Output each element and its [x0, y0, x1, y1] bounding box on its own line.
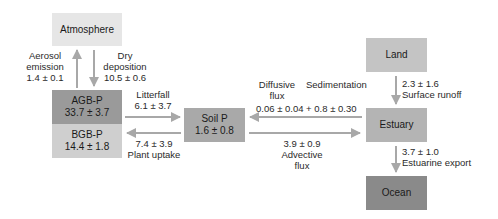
agb-value: 33.7 ± 3.7: [65, 107, 109, 119]
advective-line1: Advective: [272, 149, 332, 160]
atmosphere-label: Atmosphere: [60, 24, 114, 36]
aerosol-flux-label: Aerosol emission 1.4 ± 0.1: [22, 50, 68, 83]
diffusive-line1: Diffusive: [255, 79, 299, 90]
aerosol-value: 1.4 ± 0.1: [22, 72, 68, 83]
diff-sed-value: 0.06 ± 0.04 + 0.8 ± 0.30: [256, 103, 357, 114]
litterfall-text: Litterfall: [130, 89, 176, 100]
ocean-box: Ocean: [366, 176, 427, 210]
uptake-value: 7.4 ± 3.9: [124, 138, 184, 149]
runoff-value: 2.3 ± 1.6: [402, 78, 462, 89]
soil-label: Soil P: [201, 113, 227, 125]
runoff-label: 2.3 ± 1.6 Surface runoff: [402, 78, 462, 100]
dry-dep-line1: Dry: [100, 50, 150, 61]
aerosol-line2: emission: [22, 61, 68, 72]
advective-value: 3.9 ± 0.9: [272, 138, 332, 149]
soil-box: Soil P 1.6 ± 0.8: [184, 108, 245, 142]
diffusive-line2: flux: [255, 90, 299, 101]
uptake-text: Plant uptake: [124, 149, 184, 160]
dry-dep-line2: deposition: [100, 61, 150, 72]
estuary-label: Estuary: [380, 119, 414, 131]
export-value: 3.7 ± 1.0: [402, 146, 471, 157]
sedimentation-label: Sedimentation: [306, 79, 367, 90]
agb-label: AGB-P: [71, 95, 102, 107]
export-label: 3.7 ± 1.0 Estuarine export: [402, 146, 471, 168]
bgb-label: BGB-P: [71, 129, 102, 141]
plant-uptake-label: 7.4 ± 3.9 Plant uptake: [124, 138, 184, 160]
advective-flux-label: 3.9 ± 0.9 Advective flux: [272, 138, 332, 171]
land-box: Land: [366, 38, 427, 72]
litterfall-label: Litterfall 6.1 ± 3.7: [130, 89, 176, 111]
diffusive-flux-label: Diffusive flux: [255, 79, 299, 101]
dry-dep-value: 10.5 ± 0.6: [100, 72, 150, 83]
atmosphere-box: Atmosphere: [52, 13, 122, 46]
ocean-label: Ocean: [382, 187, 411, 199]
runoff-text: Surface runoff: [402, 89, 462, 100]
agb-box: AGB-P 33.7 ± 3.7: [52, 90, 122, 124]
export-text: Estuarine export: [402, 157, 471, 168]
land-label: Land: [385, 49, 407, 61]
dry-deposition-label: Dry deposition 10.5 ± 0.6: [100, 50, 150, 83]
bgb-value: 14.4 ± 1.8: [65, 141, 109, 153]
soil-value: 1.6 ± 0.8: [195, 125, 234, 137]
aerosol-line1: Aerosol: [22, 50, 68, 61]
estuary-box: Estuary: [366, 108, 427, 142]
litterfall-value: 6.1 ± 3.7: [130, 100, 176, 111]
bgb-box: BGB-P 14.4 ± 1.8: [52, 124, 122, 158]
advective-line2: flux: [272, 160, 332, 171]
